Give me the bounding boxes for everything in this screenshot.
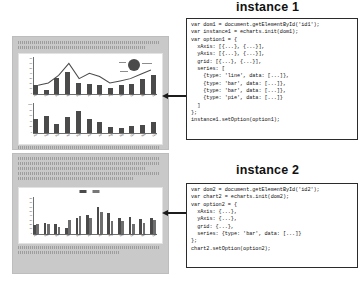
bar	[86, 215, 89, 234]
code-line: var instance1 = echarts.init(dom1);	[191, 29, 353, 36]
y-axis-bottom: 80 70 60 50 40 30 20 10 0	[22, 197, 32, 234]
code-line: grid: [{...}, {...}],	[191, 59, 353, 66]
bar	[97, 122, 102, 133]
code-line: var dom1 = document.getElementById('id1'…	[191, 22, 353, 29]
bar-group	[107, 213, 113, 234]
x-tick: Feb	[44, 133, 49, 138]
bar	[33, 119, 38, 133]
instance2-code-card: var dom2 = document.getElementById('id2'…	[186, 183, 358, 268]
x-tick: Aug	[108, 93, 113, 98]
x-tick: Dec	[152, 233, 157, 238]
code-line: yAxis: [{...}, {...}],	[191, 51, 353, 58]
placeholder-text-line	[18, 162, 159, 165]
x-axis-lower: JanFebMarAprMayJunJulAugSepOctNovDec	[33, 135, 156, 141]
x-tick: Apr	[66, 133, 71, 137]
x-tick: Mar	[55, 233, 60, 238]
x-tick: Jul	[98, 134, 102, 138]
plot-area-upper	[33, 57, 156, 94]
webpage-mock-bottom: 80 70 60 50 40 30 20 10 0 JanFebMarAprMa…	[12, 153, 169, 274]
x-tick: Oct	[130, 93, 135, 97]
x-tick: Jun	[87, 233, 92, 237]
x-tick: Nov	[141, 233, 146, 238]
bar	[139, 219, 142, 234]
x-tick: Feb	[44, 93, 49, 98]
bar	[76, 111, 81, 133]
axis-line-x	[33, 133, 157, 134]
x-tick: Dec	[152, 93, 157, 98]
placeholder-text-line	[18, 146, 159, 149]
x-tick: Jan	[33, 93, 38, 97]
bar-series-bottom	[33, 197, 156, 234]
legend-swatch-icon	[92, 190, 99, 193]
x-tick: Sep	[119, 233, 124, 238]
x-tick: Jan	[33, 233, 38, 237]
x-tick: Jul	[98, 234, 102, 238]
bar	[108, 127, 113, 133]
placeholder-text-line	[18, 177, 134, 180]
x-tick: Oct	[130, 233, 135, 237]
chart-card-instance1: 70 60 50 40 30 20 10 0	[18, 53, 163, 145]
x-tick: Oct	[130, 133, 135, 137]
x-tick: Jun	[87, 93, 92, 97]
legend-item[interactable]	[80, 190, 89, 193]
bar-group	[65, 220, 71, 234]
x-tick: Jun	[87, 133, 92, 137]
bar	[87, 119, 92, 133]
bar	[44, 223, 47, 234]
x-tick: May	[76, 233, 81, 238]
code-line: var option1 = {	[191, 37, 353, 44]
instance2-title: instance 2	[236, 163, 299, 177]
bar	[44, 116, 49, 133]
bar-group	[129, 217, 135, 234]
pie-label-line	[142, 63, 152, 64]
bar	[89, 218, 92, 235]
placeholder-text-line	[18, 41, 159, 44]
bar	[118, 218, 121, 234]
code-line: grid: {...},	[191, 224, 353, 231]
bar	[100, 212, 103, 234]
placeholder-text-line	[18, 167, 146, 170]
pie-chart-upper	[128, 59, 140, 71]
bar	[54, 224, 57, 235]
plot-area-bottom	[33, 197, 156, 234]
bar	[107, 213, 110, 234]
bar-group	[118, 218, 124, 234]
pie-label-line	[119, 62, 126, 63]
legend-item[interactable]	[92, 190, 101, 193]
code-line: series: {type: 'bar', data: [...]}	[191, 231, 353, 238]
code-line: xAxis: {...},	[191, 209, 353, 216]
arrow-instance2	[167, 212, 187, 214]
x-tick: Aug	[108, 133, 113, 138]
code-line: };	[191, 110, 353, 117]
plot-area-lower	[33, 103, 156, 133]
x-tick: May	[76, 133, 81, 138]
chart-card-instance2: 80 70 60 50 40 30 20 10 0 JanFebMarAprMa…	[18, 187, 163, 244]
x-tick: Aug	[108, 233, 113, 238]
placeholder-text-line	[18, 172, 159, 175]
diagram-root: 70 60 50 40 30 20 10 0	[0, 0, 364, 281]
code-line: chart2.setOption(option2);	[191, 246, 353, 253]
bar-group	[76, 216, 82, 234]
y-axis-lower: 100 80 60 40 20 0	[22, 103, 32, 133]
code-line: xAxis: [{...}, {...}],	[191, 44, 353, 51]
chart-legend[interactable]	[80, 190, 101, 193]
instance1-code-card: var dom1 = document.getElementById('id1'…	[186, 18, 358, 140]
x-tick: Nov	[141, 133, 146, 138]
chart-top-upper: 70 60 50 40 30 20 10 0	[22, 57, 158, 101]
webpage-mock-top: 70 60 50 40 30 20 10 0	[12, 36, 169, 150]
x-tick: May	[76, 93, 81, 98]
code-line: series: [	[191, 66, 353, 73]
bar	[150, 218, 153, 235]
x-axis-bottom: JanFebMarAprMayJunJulAugSepOctNovDec	[33, 235, 156, 241]
placeholder-text-line	[18, 251, 120, 254]
bar	[76, 218, 79, 235]
bar	[129, 217, 132, 234]
bar	[129, 126, 134, 133]
bar	[54, 124, 59, 133]
y-tick: 100	[28, 103, 32, 105]
code-line: var chart2 = echarts.init(dom2);	[191, 194, 353, 201]
pie-label-line	[120, 71, 128, 72]
arrow-instance1	[167, 95, 187, 97]
bar	[65, 117, 70, 133]
placeholder-text-line	[18, 246, 159, 249]
